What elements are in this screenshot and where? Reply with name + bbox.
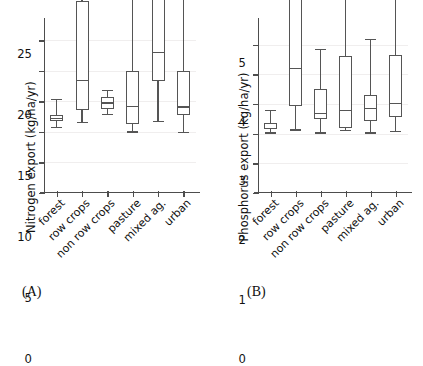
median-line [264,128,277,129]
whisker-cap-lower [77,122,88,123]
whisker-cap-upper [51,99,62,100]
median-line [101,102,114,103]
panel-caption-a: (A) [22,284,41,300]
y-axis-tick-label: 0 [25,352,32,366]
whisker-upper [183,0,184,71]
box-iqr [289,0,302,106]
panel-nitrogen: Nitrogen export (kg/ha/yr) 0510152025for… [0,0,211,314]
y-axis-tick-label: 4 [239,115,246,129]
plot-area-phosphorus: 012345forest18.6row cropsnon row cropspa… [258,27,408,193]
whisker-cap-lower [315,132,326,133]
median-line [177,106,190,107]
boxplot-nonrowcrops [95,0,119,193]
median-line [389,103,402,104]
whisker-lower [370,121,371,133]
whisker-cap-lower [265,132,276,133]
whisker-cap-upper [265,110,276,111]
y-axis-tick-label: 20 [17,108,32,122]
median-line [339,110,352,111]
boxplot-nonrowcrops [309,0,333,193]
whisker-lower [81,110,82,122]
whisker-cap-lower [390,131,401,132]
y-axis-tick-label: 10 [17,230,32,244]
whisker-cap-lower [102,114,113,115]
median-line [289,68,302,69]
whisker-upper [132,0,133,71]
y-axis-label-nitrogen: Nitrogen export (kg/ha/yr) [24,64,38,250]
boxplot-mixedag [359,0,383,193]
y-axis-tick-label: 15 [17,169,32,183]
y-axis-tick-label: 3 [239,174,246,188]
boxplot-forest [45,0,69,193]
whisker-cap-lower [290,129,301,130]
plot-area-nitrogen: 0510152025forest79.6row cropsnon row cro… [44,27,196,193]
y-axis-tick-label: 0 [239,352,246,366]
whisker-lower [183,115,184,132]
whisker-cap-upper [365,39,376,40]
whisker-lower [132,124,133,132]
boxplot-rowcrops: 18.6 [284,0,308,193]
whisker-cap-lower [178,132,189,133]
median-line [76,80,89,81]
whisker-upper [345,0,346,56]
whisker-lower [157,81,158,121]
y-axis-tick-label: 1 [239,293,246,307]
y-axis-tick: 0 [39,193,45,194]
y-axis-tick-label: 2 [239,233,246,247]
median-line [152,52,165,53]
panel-caption-b: (B) [247,284,266,300]
y-axis-tick-label: 5 [239,56,246,70]
median-line [314,113,327,114]
whisker-cap-lower [51,127,62,128]
whisker-upper [395,0,396,55]
whisker-upper [370,39,371,95]
box-iqr [389,55,402,116]
whisker-lower [320,119,321,132]
box-iqr [339,56,352,128]
whisker-lower [295,106,296,129]
y-axis-label-phosphorus: Phosphorus export (kg/ha/yr) [237,64,251,250]
whisker-upper [320,49,321,89]
y-axis-tick-label: 25 [17,47,32,61]
whisker-upper [270,110,271,123]
whisker-cap-lower [340,130,351,131]
boxplot-forest [259,0,283,193]
whisker-lower [395,117,396,132]
boxplot-pasture [334,0,358,193]
box-iqr [152,0,165,81]
box-iqr [177,71,190,115]
boxplot-pasture: 30.85 [121,0,145,193]
whisker-upper [56,99,57,115]
box-iqr [314,89,327,120]
panel-phosphorus: Phosphorus export (kg/ha/yr) 012345fores… [211,0,422,314]
median-line [126,106,139,107]
boxplot-rowcrops: 79.6 [70,0,94,193]
median-line [50,118,63,119]
box-iqr [126,71,139,124]
boxplot-urban: 38.47 [171,0,195,193]
boxplot-mixedag: 41.50 [146,0,170,193]
whisker-cap-lower [153,121,164,122]
y-axis-tick: 0 [253,193,259,194]
median-line [364,108,377,109]
box-iqr [76,1,89,110]
boxplot-urban: 6.23 [384,0,408,193]
whisker-cap-upper [315,49,326,50]
whisker-cap-upper [102,90,113,91]
whisker-cap-lower [365,132,376,133]
whisker-cap-lower [127,131,138,132]
